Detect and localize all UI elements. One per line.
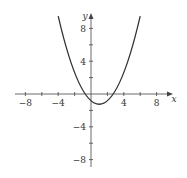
y-tick-label: 4: [80, 57, 86, 67]
y-tick-label: 8: [80, 24, 86, 34]
y-axis-arrow-icon: [89, 13, 94, 19]
x-tick-label: 8: [154, 98, 160, 108]
x-tick-label: 4: [121, 98, 127, 108]
y-tick-label: −8: [73, 155, 87, 165]
x-tick-label: −8: [19, 98, 33, 108]
parabola-curve: [58, 16, 140, 104]
x-axis-label: x: [171, 94, 176, 104]
y-tick-label: −4: [73, 122, 87, 132]
plot-canvas: −8 −4 4 8 x 8 4 −4 −8 y: [0, 0, 187, 178]
y-axis-label: y: [81, 11, 88, 21]
x-tick-label: −4: [52, 98, 66, 108]
